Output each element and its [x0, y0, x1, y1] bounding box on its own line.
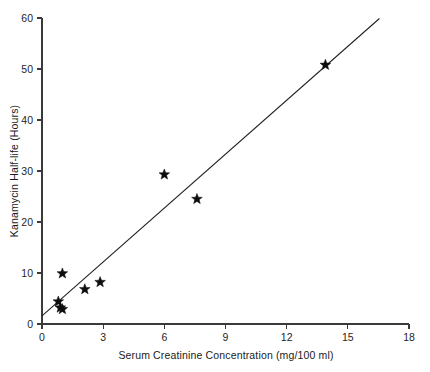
y-tick-label: 20	[21, 216, 33, 228]
y-axis-title: Kanamycin Half-life (Hours)	[8, 105, 20, 237]
x-tick-label: 3	[100, 331, 106, 343]
x-tick-label: 9	[223, 331, 229, 343]
plot-area: 0369121518 0102030405060 Serum Creatinin…	[0, 0, 430, 372]
y-tick-label: 30	[21, 165, 33, 177]
x-tick-label: 6	[161, 331, 167, 343]
x-tick-label: 12	[281, 331, 293, 343]
x-tick-group: 0369121518	[39, 324, 415, 343]
x-tick-label: 18	[403, 331, 415, 343]
data-point-marker	[79, 284, 90, 294]
y-tick-label: 0	[27, 318, 33, 330]
data-point-marker	[192, 193, 203, 203]
axes-group	[42, 18, 409, 324]
y-tick-label: 50	[21, 63, 33, 75]
y-tick-label: 60	[21, 12, 33, 24]
y-tick-label: 10	[21, 267, 33, 279]
y-tick-group: 0102030405060	[21, 12, 42, 330]
y-tick-label: 40	[21, 114, 33, 126]
x-tick-label: 15	[342, 331, 354, 343]
data-point-marker	[159, 169, 170, 179]
data-point-marker	[320, 59, 331, 69]
data-point-marker	[57, 268, 68, 278]
data-point-marker	[95, 277, 106, 287]
scatter-chart: 0369121518 0102030405060 Serum Creatinin…	[0, 0, 430, 372]
data-point-marker	[57, 304, 68, 314]
x-tick-label: 0	[39, 331, 45, 343]
x-axis-title: Serum Creatinine Concentration (mg/100 m…	[118, 349, 333, 361]
